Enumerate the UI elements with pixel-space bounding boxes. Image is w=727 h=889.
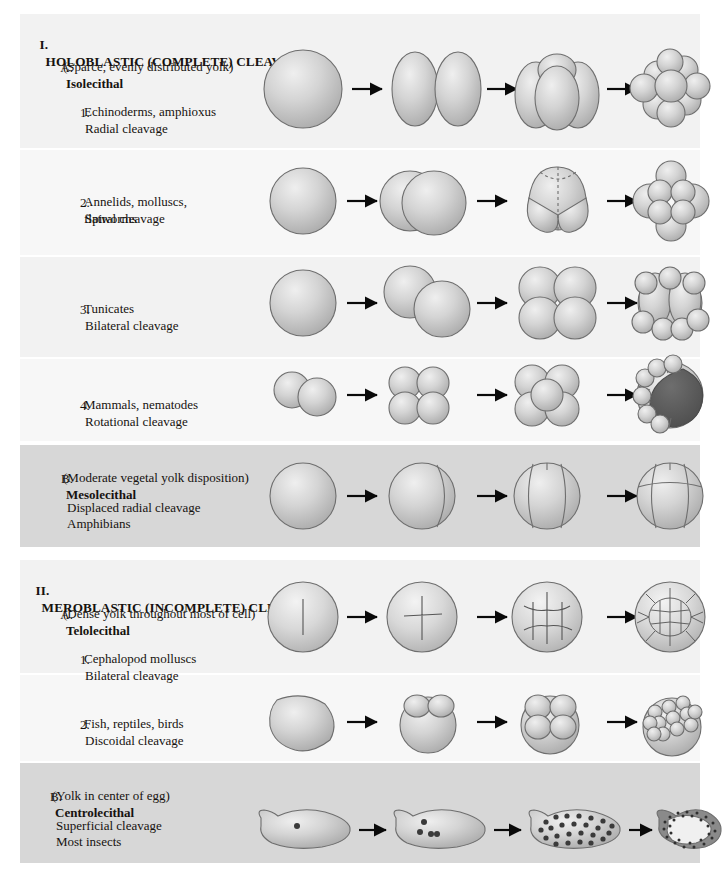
spiral-stage-2-cell bbox=[380, 171, 466, 235]
telo-stage-single-furrow bbox=[268, 582, 338, 652]
rotational-stage-4-cell bbox=[389, 367, 449, 424]
rotational-stage-2-cell bbox=[274, 372, 336, 416]
telo-stage-blastodisc bbox=[635, 582, 705, 652]
bilateral-stage-multicell bbox=[632, 267, 709, 340]
superficial-stage-1-nucleus bbox=[259, 810, 350, 849]
spiral-stage-multicell bbox=[633, 161, 709, 241]
radial-stage-4-cell bbox=[515, 54, 599, 130]
superficial-stage-many-nuclei bbox=[529, 810, 620, 849]
radial-stage-2-cell bbox=[392, 52, 481, 126]
bilateral-stage-1-cell bbox=[270, 270, 336, 336]
bilateral-stage-4-cell bbox=[519, 267, 596, 339]
meso-stage-1-cell bbox=[270, 463, 336, 529]
telo-stage-cross-furrow bbox=[387, 582, 457, 652]
discoidal-stage-yolk-mass bbox=[270, 696, 334, 751]
spiral-stage-1-cell bbox=[270, 168, 336, 234]
meso-stage-4-cell bbox=[514, 463, 580, 529]
discoidal-stage-2-cell-cap bbox=[400, 695, 456, 753]
superficial-stage-4-nuclei bbox=[394, 810, 485, 849]
discoidal-stage-4-cell-cap bbox=[521, 695, 579, 754]
bilateral-stage-2-cell bbox=[384, 266, 470, 337]
rotational-stage-blastocyst bbox=[633, 355, 703, 433]
telo-stage-multiple-furrows bbox=[512, 582, 582, 652]
embryo-illustrations bbox=[0, 0, 727, 889]
superficial-stage-blastoderm bbox=[657, 810, 721, 849]
meso-stage-2-cell bbox=[389, 463, 455, 529]
radial-stage-1-cell bbox=[264, 50, 342, 128]
discoidal-stage-multicell-cap bbox=[643, 696, 702, 756]
rotational-stage-8-cell bbox=[515, 365, 579, 426]
figure-canvas: I. HOLOBLASTIC (COMPLETE) CLEAVAGE A. Is… bbox=[0, 0, 727, 889]
meso-stage-8-cell-displaced bbox=[637, 463, 703, 529]
radial-stage-16-cell bbox=[630, 49, 710, 127]
spiral-stage-4-cell bbox=[527, 167, 588, 232]
